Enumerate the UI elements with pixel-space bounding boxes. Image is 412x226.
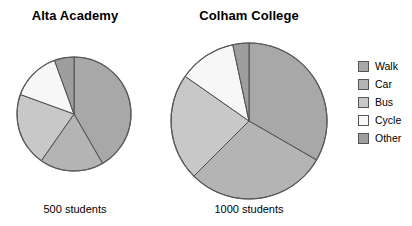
legend-item-bus: Bus (358, 94, 410, 110)
chart-legend: Walk Car Bus Cycle Other (358, 58, 410, 148)
legend-item-car: Car (358, 76, 410, 92)
chart-canvas: Alta Academy Colham College 500 students… (0, 0, 412, 226)
legend-swatch-car (358, 79, 369, 90)
legend-swatch-cycle (358, 115, 369, 126)
legend-label-cycle: Cycle (375, 115, 401, 126)
pie-chart-colham (170, 42, 326, 198)
legend-label-bus: Bus (375, 97, 393, 108)
legend-item-other: Other (358, 130, 410, 146)
legend-swatch-bus (358, 97, 369, 108)
chart-title-colham: Colham College (170, 8, 328, 23)
chart-title-alta: Alta Academy (0, 8, 150, 23)
chart-caption-alta: 500 students (0, 203, 150, 215)
legend-label-other: Other (375, 133, 401, 144)
legend-label-walk: Walk (375, 61, 398, 72)
chart-caption-colham: 1000 students (170, 203, 328, 215)
pie-chart-alta (16, 56, 130, 170)
legend-item-walk: Walk (358, 58, 410, 74)
legend-swatch-other (358, 133, 369, 144)
legend-label-car: Car (375, 79, 392, 90)
legend-swatch-walk (358, 61, 369, 72)
legend-item-cycle: Cycle (358, 112, 410, 128)
